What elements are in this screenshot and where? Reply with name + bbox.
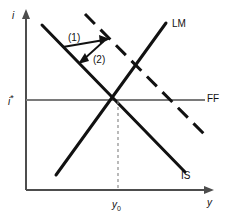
x-tick-label-y-zero: y0	[112, 200, 121, 212]
is-shifted-curve-dashed	[85, 14, 206, 136]
annotation-arrow-two-head	[78, 53, 89, 64]
annotation-label-two: (2)	[93, 55, 105, 65]
vertical-axis-arrowhead	[22, 9, 30, 19]
y-axis-title: i	[12, 11, 14, 21]
annotation-label-one: (1)	[68, 33, 80, 43]
is-lm-ff-diagram: i y i* y0 LM IS FF (1) (2)	[0, 0, 229, 223]
x-tick-label-subscript: 0	[117, 205, 121, 212]
horizontal-axis-arrowhead	[204, 186, 214, 194]
y-tick-label-superscript: *	[10, 93, 14, 103]
is-curve-label: IS	[181, 171, 190, 181]
diagram-canvas	[0, 0, 229, 223]
x-axis-title: y	[207, 198, 212, 208]
ff-curve-label: FF	[207, 94, 219, 104]
y-tick-label-i-star: i*	[8, 94, 14, 107]
lm-curve-label: LM	[172, 19, 186, 29]
